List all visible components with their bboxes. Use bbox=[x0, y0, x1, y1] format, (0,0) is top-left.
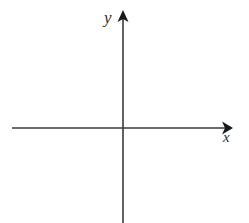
coordinate-axes-figure: y x bbox=[0, 0, 249, 223]
y-axis-label: y bbox=[104, 9, 112, 26]
axes-drawing bbox=[0, 0, 249, 223]
x-axis-label: x bbox=[223, 130, 230, 145]
